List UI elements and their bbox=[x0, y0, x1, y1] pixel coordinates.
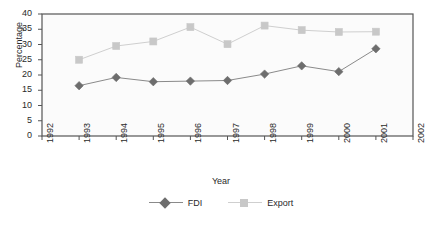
square-marker-icon bbox=[240, 199, 248, 207]
x-tick-label: 2001 bbox=[380, 123, 389, 143]
x-tick-label: 1993 bbox=[83, 123, 92, 143]
plot-area bbox=[0, 0, 442, 225]
legend-item-export: Export bbox=[228, 197, 293, 209]
x-tick-label: 2002 bbox=[417, 123, 426, 143]
legend-item-fdi: FDI bbox=[149, 197, 203, 209]
x-tick-label: 1996 bbox=[194, 123, 203, 143]
x-tick-label: 2000 bbox=[343, 123, 352, 143]
x-tick-label: 1995 bbox=[157, 123, 166, 143]
x-tick-label: 1992 bbox=[46, 123, 55, 143]
x-axis-title: Year bbox=[0, 176, 442, 186]
chart-legend: FDI Export bbox=[0, 193, 442, 213]
legend-label-export: Export bbox=[267, 198, 293, 208]
x-tick-label: 1994 bbox=[120, 123, 129, 143]
x-tick-label: 1999 bbox=[306, 123, 315, 143]
legend-key-export bbox=[228, 197, 262, 209]
x-tick-label: 1997 bbox=[232, 123, 241, 143]
diamond-marker-icon bbox=[159, 197, 170, 208]
legend-key-fdi bbox=[149, 197, 183, 209]
legend-label-fdi: FDI bbox=[188, 198, 203, 208]
x-tick-label: 1998 bbox=[269, 123, 278, 143]
chart-container: Percentage 0510152025303540 199219931994… bbox=[0, 0, 442, 225]
